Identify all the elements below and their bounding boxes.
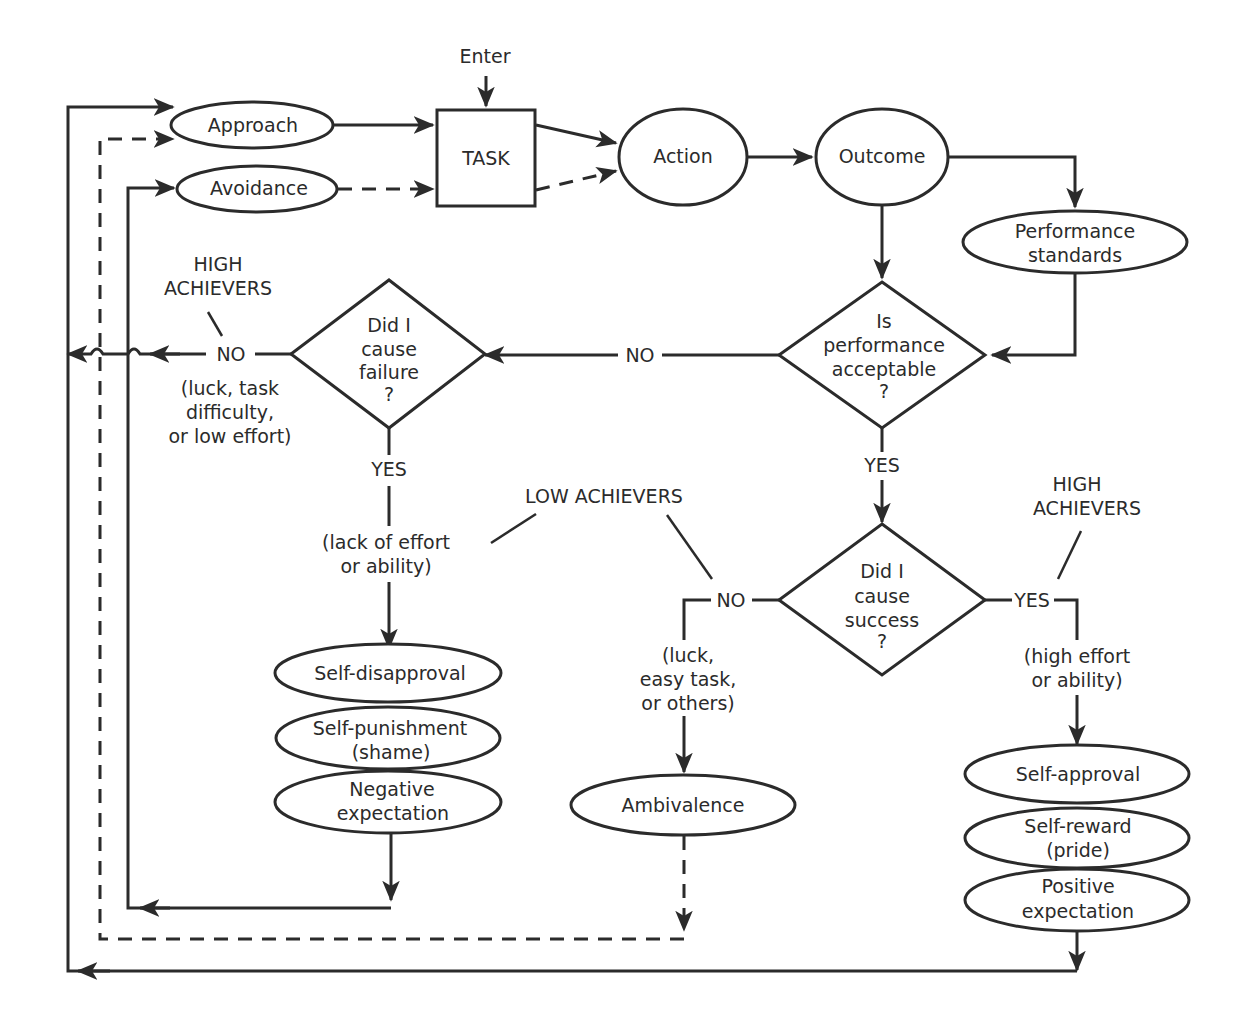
decision-cause-success[interactable]: Did I cause success ? [779, 524, 985, 675]
annotation-low-achievers: LOW ACHIEVERS [525, 485, 683, 507]
node-task[interactable]: TASK [437, 110, 535, 206]
decision-success-line4: ? [877, 630, 887, 652]
edge-outcome-standards [949, 157, 1075, 207]
node-self-punishment-line1: Self-punishment [313, 717, 468, 739]
node-self-reward-line2: (pride) [1046, 839, 1110, 861]
annotation-pointer-low-left [491, 514, 536, 543]
node-performance-standards[interactable]: Performance standards [963, 211, 1187, 273]
achievement-attribution-flowchart: Enter Approach Avoidance TASK Action Out… [0, 0, 1257, 1027]
decision-success-line2: cause [854, 585, 910, 607]
decision-cause-failure[interactable]: Did I cause failure ? [291, 280, 485, 428]
label-yes-failure: YES [370, 458, 407, 480]
node-negative-expectation[interactable]: Negative expectation [275, 771, 501, 833]
decision-failure-line3: failure [359, 361, 419, 383]
node-performance-standards-line1: Performance [1015, 220, 1135, 242]
node-action-label: Action [653, 145, 713, 167]
node-positive-expectation[interactable]: Positive expectation [965, 869, 1189, 931]
decision-performance-acceptable[interactable]: Is performance acceptable ? [779, 282, 985, 428]
failure-yes-reason-line2: or ability) [340, 555, 431, 577]
success-no-reason-line2: easy task, [640, 668, 737, 690]
label-no-failure: NO [216, 343, 245, 365]
annotation-pointer-high-right [1058, 531, 1081, 579]
decision-success-line3: success [845, 609, 919, 631]
decision-success-line1: Did I [860, 560, 904, 582]
decision-failure-line2: cause [361, 338, 417, 360]
loop-positive-to-approach [68, 107, 1077, 971]
decision-acceptable-line2: performance [823, 334, 945, 356]
success-yes-reason-line1: (high effort [1024, 645, 1131, 667]
failure-no-reason-line3: or low effort) [168, 425, 291, 447]
label-no-acceptable: NO [625, 344, 654, 366]
annotation-pointer-low-right [667, 515, 712, 579]
node-self-disapproval[interactable]: Self-disapproval [275, 644, 501, 702]
success-no-reason-line1: (luck, [662, 644, 714, 666]
node-self-reward-line1: Self-reward [1024, 815, 1131, 837]
decision-acceptable-line4: ? [879, 380, 889, 402]
node-positive-expectation-line1: Positive [1041, 875, 1114, 897]
enter-label: Enter [460, 45, 511, 67]
node-ambivalence[interactable]: Ambivalence [571, 775, 795, 835]
node-avoidance-label: Avoidance [210, 177, 308, 199]
node-task-label: TASK [461, 147, 510, 169]
success-no-reason-line3: or others) [641, 692, 734, 714]
node-self-approval[interactable]: Self-approval [965, 745, 1189, 803]
edge-success-yes-b [1054, 600, 1077, 640]
decision-failure-line1: Did I [367, 314, 411, 336]
annotation-high-achievers-right-line1: HIGH [1053, 473, 1102, 495]
edge-task-action [536, 125, 616, 143]
node-positive-expectation-line2: expectation [1022, 900, 1134, 922]
node-outcome-label: Outcome [839, 145, 926, 167]
node-self-punishment-line2: (shame) [352, 741, 431, 763]
success-yes-reason-line2: or ability) [1031, 669, 1122, 691]
annotation-high-achievers-left-line1: HIGH [194, 253, 243, 275]
annotation-high-achievers-left-line2: ACHIEVERS [164, 277, 272, 299]
node-self-punishment[interactable]: Self-punishment (shame) [276, 707, 500, 769]
node-approach-label: Approach [208, 114, 298, 136]
edge-standards-acceptable [992, 274, 1075, 355]
edge-success-no-b [684, 600, 711, 640]
node-ambivalence-label: Ambivalence [622, 794, 745, 816]
node-self-approval-label: Self-approval [1016, 763, 1140, 785]
node-self-disapproval-label: Self-disapproval [314, 662, 466, 684]
annotation-high-achievers-right-line2: ACHIEVERS [1033, 497, 1141, 519]
node-performance-standards-line2: standards [1028, 244, 1122, 266]
annotation-pointer-high-left [208, 312, 222, 336]
failure-no-reason-line1: (luck, task [181, 377, 279, 399]
decision-acceptable-line1: Is [876, 310, 892, 332]
node-self-reward[interactable]: Self-reward (pride) [965, 808, 1189, 868]
node-outcome[interactable]: Outcome [816, 109, 948, 205]
node-negative-expectation-line2: expectation [337, 802, 449, 824]
label-yes-acceptable: YES [863, 454, 900, 476]
label-no-success: NO [716, 589, 745, 611]
label-yes-success: YES [1013, 589, 1050, 611]
failure-no-reason-line2: difficulty, [186, 401, 274, 423]
failure-yes-reason-line1: (lack of effort [322, 531, 450, 553]
edge-task-action-dashed [536, 171, 616, 190]
node-avoidance[interactable]: Avoidance [177, 166, 337, 212]
node-action[interactable]: Action [619, 109, 747, 205]
decision-failure-line4: ? [384, 383, 394, 405]
node-approach[interactable]: Approach [171, 102, 333, 148]
decision-acceptable-line3: acceptable [832, 358, 936, 380]
node-negative-expectation-line1: Negative [349, 778, 434, 800]
